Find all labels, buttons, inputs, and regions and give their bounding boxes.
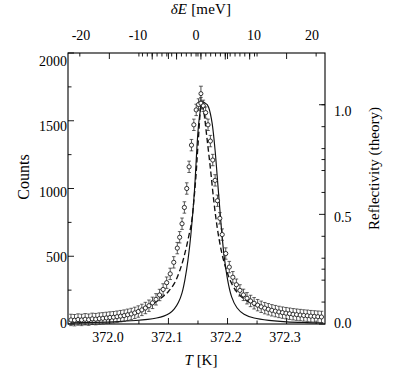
theory-solid-curve — [71, 102, 323, 323]
plot-canvas — [0, 0, 402, 380]
data-points — [69, 86, 324, 326]
axes-frame — [68, 53, 325, 324]
figure-panel: δE [meV] T [K] Counts Reflectivity (theo… — [0, 0, 402, 380]
axis-ticks — [68, 53, 325, 324]
